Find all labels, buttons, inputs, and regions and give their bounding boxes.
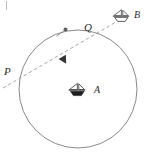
circular-path [19,30,137,148]
boat-b-sailboat-outline-icon [113,10,129,22]
boat-a-sailboat-filled-icon [69,83,86,95]
arc-marker-dot-icon [57,28,68,37]
label-point-q: Q [84,22,92,33]
diagram-canvas [0,0,151,160]
label-boat-a: A [94,85,100,95]
label-boat-b: B [134,10,140,20]
label-point-p: P [4,66,11,77]
arrowhead-icon [59,55,70,66]
dashed-sight-line [3,22,116,88]
circular-path-diagram: P Q A B [0,0,151,160]
